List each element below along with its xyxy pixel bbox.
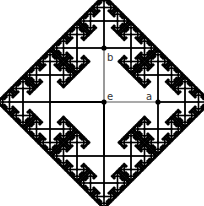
node-label-a: a	[146, 92, 152, 102]
vertex	[103, 155, 105, 157]
node-label-e: e	[107, 92, 113, 102]
node-label-b: b	[107, 53, 113, 63]
cayley-graph-diagram	[0, 0, 204, 206]
vertex	[49, 101, 51, 103]
vertex-b	[101, 45, 106, 50]
vertex-e	[101, 99, 106, 104]
vertex-a	[155, 99, 160, 104]
